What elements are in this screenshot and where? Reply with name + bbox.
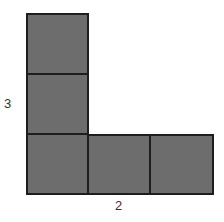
square-middle-left bbox=[26, 73, 89, 135]
square-bottom-right bbox=[149, 134, 214, 195]
width-label: 2 bbox=[115, 198, 122, 213]
square-bottom-left bbox=[26, 133, 89, 195]
square-top-left bbox=[26, 13, 89, 75]
height-label: 3 bbox=[4, 96, 11, 111]
square-bottom-middle bbox=[87, 134, 151, 195]
